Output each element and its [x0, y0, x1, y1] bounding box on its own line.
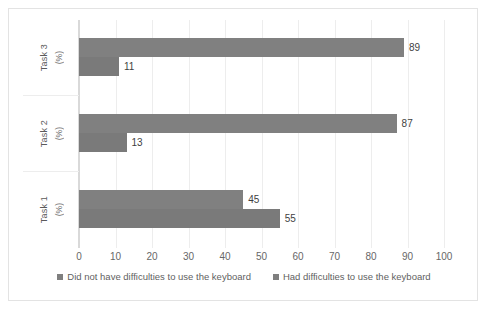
bar-task2-series-a [79, 114, 397, 133]
x-tick-100: 100 [436, 251, 453, 262]
x-tick-0: 0 [76, 251, 82, 262]
bar-value-task2-series-b: 13 [132, 133, 143, 152]
x-tick-10: 10 [110, 251, 121, 262]
bar-task1-series-a [79, 190, 243, 209]
bar-value-task3-series-b: 11 [124, 57, 134, 76]
legend-swatch-icon-series-a [57, 274, 63, 280]
x-tick-40: 40 [219, 251, 230, 262]
x-tick-20: 20 [146, 251, 157, 262]
x-tick-60: 60 [292, 251, 303, 262]
category-cell-task3: Task 3 (%) [23, 20, 79, 96]
x-tick-50: 50 [256, 251, 267, 262]
chart-container: Task 3 (%) Task 2 (%) Task 1 (%) [8, 8, 478, 301]
chart-legend: Did not have difficulties to use the key… [9, 271, 479, 282]
category-cell-task1: Task 1 (%) [23, 172, 79, 248]
category-label-task2: Task 2 [39, 120, 49, 147]
bar-value-task2-series-a: 87 [402, 114, 413, 133]
gridline-100 [444, 20, 445, 248]
x-tick-80: 80 [365, 251, 376, 262]
legend-label-series-a: Did not have difficulties to use the key… [67, 271, 251, 282]
category-label-task3: Task 3 [39, 44, 49, 71]
category-label-task1: Task 1 [39, 196, 49, 223]
plot-wrapper: Task 3 (%) Task 2 (%) Task 1 (%) [23, 20, 463, 265]
bar-task2-series-b [79, 133, 127, 152]
legend-item-series-b[interactable]: Had difficulties to use the keyboard [273, 271, 431, 282]
x-tick-70: 70 [329, 251, 340, 262]
category-unit-task2: (%) [54, 127, 64, 140]
legend-swatch-icon-series-b [273, 274, 279, 280]
value-axis: 0 10 20 30 40 50 60 70 80 90 100 [79, 248, 463, 268]
legend-label-series-b: Had difficulties to use the keyboard [283, 271, 431, 282]
bar-task3-series-b [79, 57, 119, 76]
bar-value-task3-series-a: 89 [409, 38, 420, 57]
category-unit-task3: (%) [54, 51, 64, 64]
category-cell-task2: Task 2 (%) [23, 96, 79, 172]
category-unit-task1: (%) [54, 203, 64, 216]
x-tick-90: 90 [402, 251, 413, 262]
category-axis: Task 3 (%) Task 2 (%) Task 1 (%) [23, 20, 79, 248]
x-tick-30: 30 [183, 251, 194, 262]
plot-area: 89 11 87 13 45 55 [79, 20, 463, 248]
bar-value-task1-series-b: 55 [285, 209, 296, 228]
legend-item-series-a[interactable]: Did not have difficulties to use the key… [57, 271, 251, 282]
bar-task3-series-a [79, 38, 404, 57]
bar-value-task1-series-a: 45 [248, 190, 259, 209]
bar-task1-series-b [79, 209, 280, 228]
